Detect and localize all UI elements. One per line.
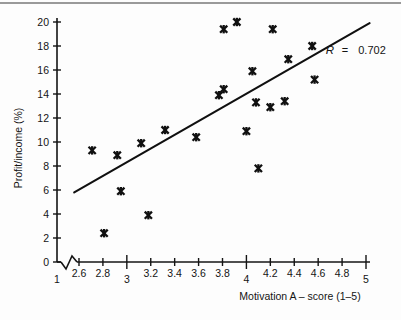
y-tick-label: 4 bbox=[43, 208, 49, 220]
x-tick-label: 4.6 bbox=[311, 267, 326, 279]
y-tick-label: 2 bbox=[43, 232, 49, 244]
data-point-marker bbox=[267, 103, 274, 111]
y-tick-label: 12 bbox=[37, 112, 49, 124]
x-tick-label: 3.4 bbox=[167, 267, 182, 279]
x-tick-label: 5 bbox=[363, 273, 369, 285]
scatter-plot: 12.62.833.23.43.63.844.24.44.64.85 02468… bbox=[0, 0, 401, 320]
data-point-marker bbox=[162, 126, 169, 134]
data-point-marker bbox=[281, 97, 288, 105]
y-tick-label: 14 bbox=[37, 88, 49, 100]
figure-container: 12.62.833.23.43.63.844.24.44.64.85 02468… bbox=[0, 0, 401, 320]
ticks-group bbox=[53, 22, 366, 269]
y-tick-label: 6 bbox=[43, 184, 49, 196]
data-point-marker bbox=[220, 85, 227, 93]
data-point-marker bbox=[233, 18, 240, 26]
y-tick-label: 10 bbox=[37, 136, 49, 148]
x-tick-label: 4.2 bbox=[263, 267, 278, 279]
x-tick-label: 2.6 bbox=[72, 267, 87, 279]
data-point-marker bbox=[285, 55, 292, 63]
data-point-marker bbox=[311, 75, 318, 83]
x-tick-label: 4.8 bbox=[335, 267, 350, 279]
data-point-marker bbox=[145, 211, 152, 219]
data-point-marker bbox=[138, 139, 145, 147]
y-tick-label: 18 bbox=[37, 40, 49, 52]
data-points-group bbox=[89, 18, 319, 238]
data-point-marker bbox=[117, 187, 124, 195]
data-point-marker bbox=[309, 42, 316, 50]
r-equals-label: = bbox=[342, 44, 348, 56]
data-point-marker bbox=[89, 146, 96, 154]
x-tick-labels: 12.62.833.23.43.63.844.24.44.64.85 bbox=[54, 267, 369, 285]
y-tick-label: 8 bbox=[43, 160, 49, 172]
data-point-marker bbox=[249, 67, 256, 75]
data-point-marker bbox=[114, 151, 121, 159]
data-point-marker bbox=[193, 133, 200, 141]
x-tick-label: 1 bbox=[54, 273, 60, 285]
data-point-marker bbox=[255, 164, 262, 172]
x-tick-label: 3.2 bbox=[143, 267, 158, 279]
y-tick-label: 0 bbox=[43, 256, 49, 268]
y-tick-label: 16 bbox=[37, 64, 49, 76]
r-value-label: 0.702 bbox=[358, 44, 386, 56]
x-tick-label: 3.8 bbox=[215, 267, 230, 279]
data-point-marker bbox=[220, 25, 227, 33]
y-tick-labels: 02468101214161820 bbox=[37, 16, 49, 268]
data-point-marker bbox=[269, 25, 276, 33]
x-tick-label: 2.8 bbox=[96, 267, 111, 279]
y-axis-title: Profit/income (%) bbox=[12, 108, 24, 189]
data-point-marker bbox=[101, 229, 108, 237]
x-tick-label: 4.4 bbox=[287, 267, 302, 279]
x-tick-label: 3 bbox=[124, 273, 130, 285]
y-tick-label: 20 bbox=[37, 16, 49, 28]
x-tick-label: 4 bbox=[243, 273, 249, 285]
data-point-marker bbox=[252, 98, 259, 106]
x-tick-label: 3.6 bbox=[191, 267, 206, 279]
r-symbol-label: R bbox=[326, 44, 334, 56]
data-point-marker bbox=[243, 127, 250, 135]
x-axis-title: Motivation A – score (1–5) bbox=[239, 290, 360, 302]
